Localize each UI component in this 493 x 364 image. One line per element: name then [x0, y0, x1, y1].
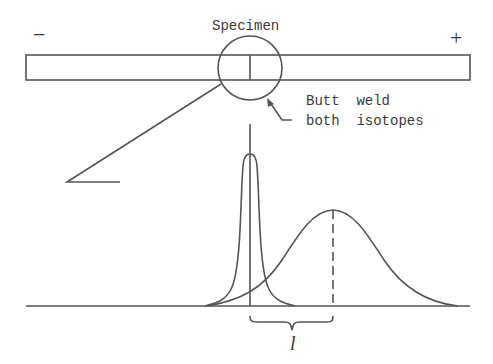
weld-arrow-line	[271, 104, 292, 120]
leader-line	[67, 84, 221, 182]
distance-brace	[250, 316, 333, 330]
distance-label: l	[290, 332, 296, 354]
specimen-label: Specimen	[212, 18, 279, 34]
weld-label-line1: Butt weld	[306, 93, 390, 109]
electromigration-diagram: − + Specimen Butt weld both isotopes l	[0, 0, 493, 364]
plus-label: +	[450, 25, 462, 50]
minus-label: −	[33, 22, 45, 47]
weld-label-line2: both isotopes	[306, 113, 424, 129]
specimen-bar	[26, 55, 470, 80]
